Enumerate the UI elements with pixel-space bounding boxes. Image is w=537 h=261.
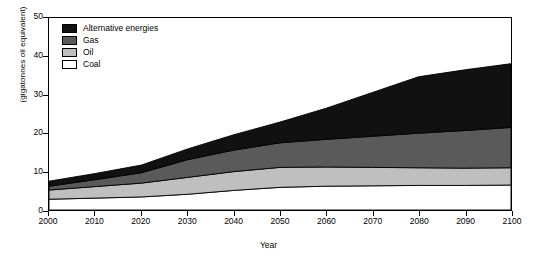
y-tick-label-0: 0 xyxy=(21,206,43,215)
x-tick-label-2060: 2060 xyxy=(306,216,346,226)
x-tick-label-2020: 2020 xyxy=(121,216,161,226)
legend-swatch-icon xyxy=(62,24,77,33)
legend-label: Oil xyxy=(83,48,93,57)
legend-swatch-icon xyxy=(62,36,77,45)
legend-label: Coal xyxy=(83,60,100,69)
legend-swatch-icon xyxy=(62,60,77,69)
x-tick-label-2100: 2100 xyxy=(492,216,532,226)
chart-legend: Alternative energiesGasOilCoal xyxy=(62,24,158,69)
y-tick-label-50: 50 xyxy=(21,12,43,21)
stacked-area-chart: (gigatonnes oil equivalent) 50403020100 … xyxy=(0,0,537,261)
legend-item-oil: Oil xyxy=(62,48,158,57)
x-tick-label-2080: 2080 xyxy=(399,216,439,226)
x-tick-label-2000: 2000 xyxy=(28,216,68,226)
y-tick-label-20: 20 xyxy=(21,128,43,137)
x-tick-label-2050: 2050 xyxy=(260,216,300,226)
x-tick-label-2010: 2010 xyxy=(74,216,114,226)
legend-label: Alternative energies xyxy=(83,24,158,33)
x-tick-label-2040: 2040 xyxy=(214,216,254,226)
legend-item-alternative-energies: Alternative energies xyxy=(62,24,158,33)
legend-swatch-icon xyxy=(62,48,77,57)
legend-item-coal: Coal xyxy=(62,60,158,69)
legend-label: Gas xyxy=(83,36,99,45)
legend-item-gas: Gas xyxy=(62,36,158,45)
y-tick-label-30: 30 xyxy=(21,90,43,99)
x-tick-label-2030: 2030 xyxy=(167,216,207,226)
x-tick-label-2090: 2090 xyxy=(446,216,486,226)
x-tick-label-2070: 2070 xyxy=(353,216,393,226)
x-axis-title: Year xyxy=(0,240,537,250)
y-tick-label-10: 10 xyxy=(21,167,43,176)
y-tick-label-40: 40 xyxy=(21,51,43,60)
